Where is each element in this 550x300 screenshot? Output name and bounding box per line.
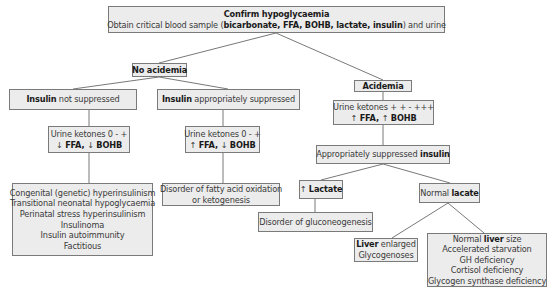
up-arrow-icon: ↑: [300, 184, 309, 194]
gluconeogenesis-disorder-node: Disorder of gluconeogenesis: [258, 212, 373, 232]
acidemia-node: Acidemia: [354, 80, 412, 92]
root-title: Confirm hypoglycaemia: [224, 9, 330, 19]
cause-item: Congenital (genetic) hyperinsulinism: [10, 188, 156, 199]
liver-enlarged-node: Liver enlarged Glycogenoses: [354, 238, 418, 262]
down-arrow-icon: ↓: [87, 140, 96, 150]
fatty-acid-disorder-node: Disorder of fatty acid oxidation or keto…: [162, 183, 280, 206]
cause-item: Insulin autoimmunity: [41, 230, 125, 241]
cause-item: Transitional neonatal hypoglycaemia: [10, 198, 155, 209]
hyperinsulinism-causes-node: Congenital (genetic) hyperinsulinism Tra…: [12, 183, 153, 256]
appropriately-suppressed-insulin-node: Appropriately suppressed insulin: [316, 145, 450, 164]
up-arrow-icon: ↑: [382, 113, 391, 123]
cause-item: Factitious: [64, 241, 101, 252]
cause-item: Perinatal stress hyperinsulinism: [20, 209, 145, 220]
cause-item: GH deficiency: [460, 255, 515, 266]
down-arrow-icon: ↓: [56, 140, 65, 150]
down-arrow-icon: ↓: [221, 140, 230, 150]
high-lactate-node: ↑ Lactate: [299, 180, 343, 199]
insulin-suppressed-node: Insulin appropriately suppressed: [157, 89, 300, 110]
right-urine-ketones-node: Urine ketones + + - +++ ↑ FFA, ↑ BOHB: [333, 100, 434, 125]
up-arrow-icon: ↑: [350, 113, 359, 123]
normal-lactate-node: Normal lacate: [419, 183, 480, 203]
normal-liver-causes-node: Normal liver size Accelerated starvation…: [427, 233, 547, 287]
left-urine-ketones-node: Urine ketones 0 - + ↓ FFA, ↓ BOHB: [48, 126, 130, 153]
mid-urine-ketones-node: Urine ketones 0 - + ↑ FFA, ↓ BOHB: [185, 126, 260, 153]
cause-item: Accelerated starvation: [442, 244, 531, 255]
root-confirm-hypoglycaemia: Confirm hypoglycaemia Obtain critical bl…: [108, 6, 445, 33]
up-arrow-icon: ↑: [189, 140, 198, 150]
cause-item: Insulinoma: [61, 220, 104, 231]
cause-item: Glycogen synthase deficiency: [428, 276, 546, 287]
no-acidemia-node: No acidemia: [132, 63, 187, 77]
insulin-not-suppressed-node: Insulin not suppressed: [9, 89, 137, 110]
cause-item: Cortisol deficiency: [451, 265, 524, 276]
